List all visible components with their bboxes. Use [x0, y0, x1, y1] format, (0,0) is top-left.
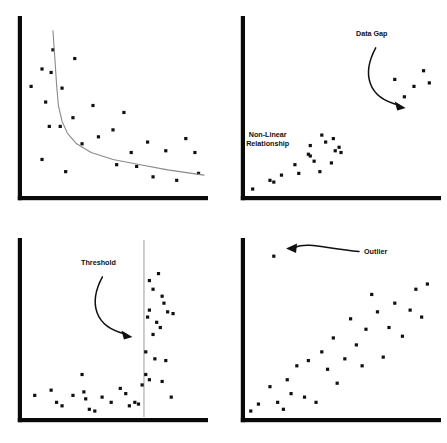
data-point [420, 315, 423, 318]
data-point [141, 383, 144, 386]
data-point [336, 382, 339, 385]
data-point [48, 125, 51, 128]
data-point [161, 380, 164, 383]
data-point [30, 85, 33, 88]
data-point [50, 71, 53, 74]
data-point [272, 180, 275, 183]
data-point [144, 373, 147, 376]
data-point [282, 408, 285, 411]
data-point [148, 279, 151, 282]
data-point [135, 165, 138, 168]
data-point [289, 392, 292, 395]
data-point [355, 343, 358, 346]
data-point [133, 401, 136, 404]
x-axis-spine [18, 418, 208, 422]
data-point [159, 326, 162, 329]
data-point [155, 321, 158, 324]
data-point [82, 390, 85, 393]
data-point [124, 392, 127, 395]
data-point [111, 128, 114, 131]
data-point [91, 104, 94, 107]
data-point [144, 350, 147, 353]
data-point [251, 187, 254, 190]
y-axis-spine [18, 238, 22, 422]
four-panel-scatter-figure: Non-LinearRelationshipData GapThresholdO… [0, 0, 447, 443]
data-point [50, 389, 53, 392]
data-point [249, 409, 252, 412]
data-point [151, 333, 154, 336]
data-point [370, 293, 373, 296]
data-point [153, 357, 156, 360]
data-point [71, 394, 74, 397]
data-point [314, 401, 317, 404]
data-point [349, 317, 352, 320]
data-point [332, 336, 335, 339]
data-point [303, 396, 306, 399]
data-point [280, 174, 283, 177]
data-point [276, 401, 279, 404]
annotation-label: Data Gap [356, 29, 388, 38]
data-point [257, 402, 260, 405]
data-point [40, 67, 43, 70]
y-axis-spine [18, 16, 22, 200]
data-point [293, 163, 296, 166]
data-point [148, 309, 151, 312]
data-point [339, 151, 342, 154]
annotation-label: Non-LinearRelationship [246, 130, 290, 149]
data-point [414, 288, 417, 291]
data-point [337, 146, 340, 149]
data-point [157, 272, 160, 275]
data-point [170, 396, 173, 399]
data-point [184, 137, 187, 140]
y-axis-spine [241, 238, 245, 422]
data-point [376, 310, 379, 313]
data-point [73, 57, 76, 60]
data-point [309, 154, 312, 157]
data-point [393, 302, 396, 305]
data-point [60, 87, 63, 90]
data-point [88, 408, 91, 411]
data-point [387, 326, 390, 329]
annotation-label: Outlier [364, 247, 387, 256]
data-point [151, 288, 154, 291]
data-point [318, 170, 321, 173]
data-point [71, 116, 74, 119]
data-point [84, 397, 87, 400]
data-point [33, 394, 36, 397]
data-point [148, 378, 151, 381]
y-axis-spine [241, 16, 245, 200]
data-point [332, 137, 335, 140]
data-point [426, 282, 429, 285]
data-point [80, 142, 83, 145]
data-point [164, 359, 167, 362]
data-point [40, 158, 43, 161]
data-point [422, 69, 425, 72]
data-point [409, 309, 412, 312]
data-point [146, 140, 149, 143]
data-point [326, 368, 329, 371]
data-point [361, 364, 364, 367]
data-point [128, 404, 131, 407]
data-point [130, 151, 133, 154]
data-point [403, 95, 406, 98]
figure-canvas: Non-LinearRelationshipData GapThresholdO… [0, 0, 447, 443]
data-point [393, 78, 396, 81]
data-point [412, 85, 415, 88]
data-point [428, 81, 431, 84]
data-point [151, 175, 154, 178]
data-point [382, 356, 385, 359]
data-point [364, 328, 367, 331]
data-point [320, 350, 323, 353]
data-point [119, 387, 122, 390]
data-point [59, 125, 62, 128]
data-point [171, 312, 174, 315]
figure-background [0, 0, 447, 443]
data-point [272, 255, 275, 258]
data-point [80, 373, 83, 376]
data-point [44, 100, 47, 103]
data-point [162, 302, 165, 305]
data-point [320, 134, 323, 137]
series-outlier [272, 255, 275, 258]
data-point [268, 179, 271, 182]
annotation-top-left: Non-LinearRelationship [246, 130, 290, 149]
